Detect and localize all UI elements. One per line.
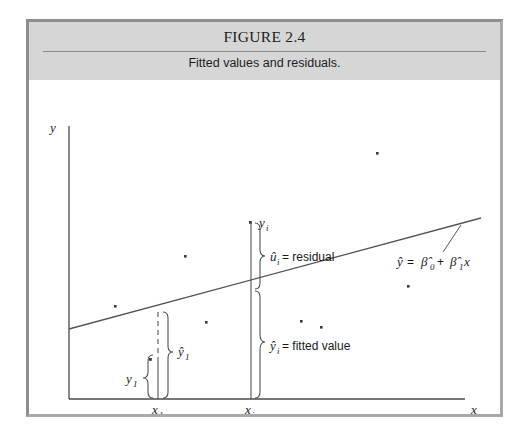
fitted-value-brace (255, 291, 265, 398)
figure-root: FIGURE 2.4 Fitted values and residuals. … (0, 0, 529, 440)
data-point (184, 255, 187, 258)
figure-caption-band: FIGURE 2.4 Fitted values and residuals. (29, 22, 500, 80)
label-residual-text: = residual (282, 250, 334, 264)
label-x-1-subscript: 1 (159, 410, 164, 414)
data-point (320, 326, 323, 329)
equation-lhs: ŷ (395, 254, 403, 269)
data-point-observation-1 (149, 358, 152, 361)
equation-plus: + (437, 255, 444, 269)
label-y-1: y (124, 371, 132, 386)
label-y-1-subscript: 1 (133, 379, 138, 389)
label-fitted-symbol-subscript: i (277, 346, 280, 356)
label-x-1: x (151, 402, 158, 414)
data-point (300, 320, 303, 323)
equation-equals: = (407, 255, 414, 269)
figure-plot-svg: y x y (29, 80, 500, 414)
y-axis-label: y (48, 120, 56, 135)
label-residual-symbol: û (270, 249, 277, 264)
label-y-i: y (257, 215, 265, 230)
label-y-i-subscript: i (266, 223, 269, 233)
x-axis-label: x (470, 402, 477, 414)
equation-leader-line (443, 225, 461, 252)
figure-number-label: FIGURE 2.4 (29, 28, 500, 46)
yhat-one-brace (163, 312, 173, 398)
y-one-brace (143, 355, 153, 398)
plot-area: y x y (29, 80, 500, 414)
label-yhat-1-subscript: 1 (185, 352, 190, 362)
data-point (407, 285, 410, 288)
label-fitted-symbol: ŷ (268, 338, 276, 353)
data-point (114, 305, 117, 308)
label-residual-symbol-subscript: i (277, 257, 280, 267)
label-yhat-1: ŷ (176, 344, 184, 359)
label-x-i-subscript: i (252, 410, 255, 414)
caption-divider (43, 51, 486, 52)
data-point (205, 321, 208, 324)
regression-line (69, 218, 481, 329)
label-x-i: x (244, 402, 251, 414)
figure-frame: FIGURE 2.4 Fitted values and residuals. … (26, 19, 503, 417)
scatter-points (114, 152, 410, 361)
data-point (376, 152, 379, 155)
equation-x: x (463, 254, 470, 269)
equation-beta0-subscript: 0 (430, 262, 435, 272)
figure-caption-text: Fitted values and residuals. (29, 56, 500, 70)
equation-beta1-subscript: 1 (459, 262, 464, 272)
regression-equation: ŷ = β̂ 0 + β̂ 1 x (395, 254, 470, 272)
label-fitted-text: = fitted value (282, 339, 351, 353)
